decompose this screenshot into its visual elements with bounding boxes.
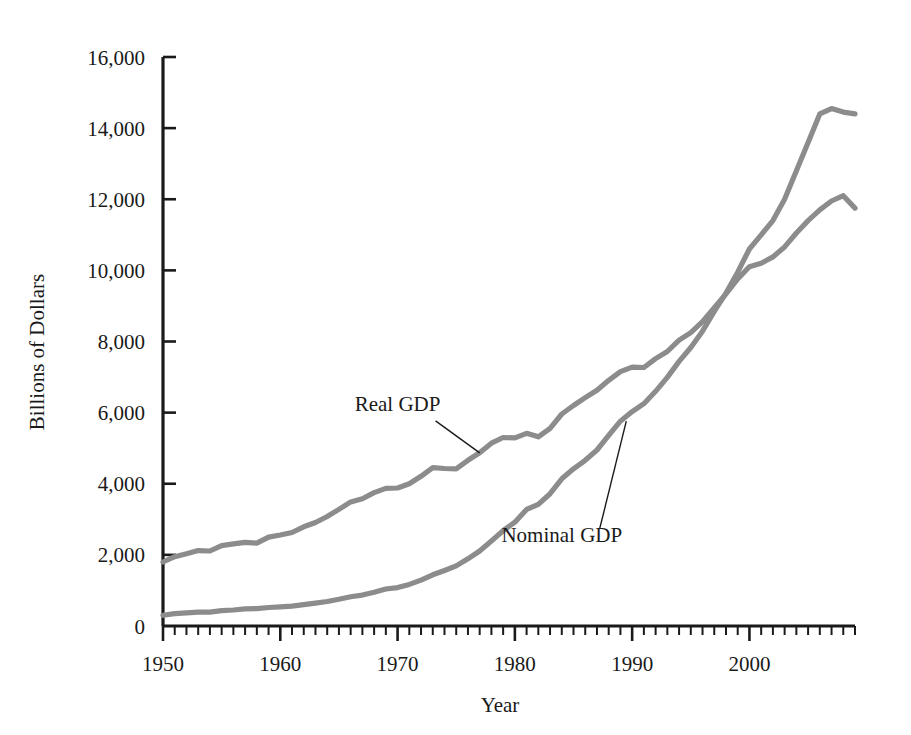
- y-tick-label: 0: [135, 615, 146, 639]
- x-axis-ticks: 195019601970198019902000: [142, 626, 855, 676]
- x-tick-label: 1950: [142, 652, 184, 676]
- y-tick-label: 8,000: [98, 330, 145, 354]
- y-tick-label: 12,000: [87, 188, 145, 212]
- annotation-leader-line: [436, 421, 480, 453]
- y-tick-label: 6,000: [98, 401, 145, 425]
- x-tick-label: 1990: [611, 652, 653, 676]
- y-axis-title: Billions of Dollars: [25, 274, 49, 430]
- y-tick-label: 10,000: [87, 259, 145, 283]
- annotation-label-real-gdp: Real GDP: [355, 392, 441, 416]
- x-tick-label: 1960: [259, 652, 301, 676]
- y-tick-label: 14,000: [87, 117, 145, 141]
- plot-area: 02,0004,0006,0008,00010,00012,00014,0001…: [87, 46, 855, 677]
- y-tick-label: 16,000: [87, 46, 145, 70]
- annotation-leader-line: [600, 421, 627, 528]
- annotation-label-nominal-gdp: Nominal GDP: [501, 523, 622, 547]
- x-tick-label: 2000: [728, 652, 770, 676]
- gdp-line-chart: 02,0004,0006,0008,00010,00012,00014,0001…: [0, 0, 911, 735]
- y-tick-label: 2,000: [98, 543, 145, 567]
- x-axis-title: Year: [481, 693, 520, 717]
- series-annotations: Real GDPNominal GDP: [355, 392, 627, 548]
- x-tick-label: 1980: [494, 652, 536, 676]
- gdp-chart-figure: 02,0004,0006,0008,00010,00012,00014,0001…: [0, 0, 911, 735]
- y-tick-label: 4,000: [98, 472, 145, 496]
- x-tick-label: 1970: [377, 652, 419, 676]
